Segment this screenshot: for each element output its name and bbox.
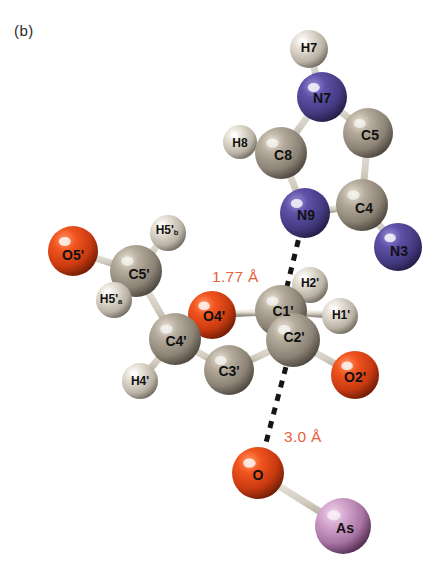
atom-O2p [331,351,379,399]
atom-O [232,447,284,499]
atom-layer [48,30,422,554]
atom-H5pa [96,282,132,318]
panel-label: (b) [14,22,34,39]
atom-C4 [336,179,388,231]
atom-C5 [343,108,393,158]
atom-H1p [322,298,358,334]
atom-O5p [48,226,98,276]
atom-C8 [255,127,307,179]
atom-N3 [374,223,422,271]
atom-C2p [266,313,320,367]
atom-N9 [280,188,330,238]
atom-C4p [149,313,201,365]
atom-N7 [297,72,347,122]
atom-H4p [122,363,158,399]
atom-As [315,498,371,554]
atom-H8 [223,125,257,159]
molecular-structure-figure: (b) 1.77 Å3.0 Å H7N7C5C8H8C4N9N3H5'bO5'C… [0,0,430,565]
atom-H5pb [150,215,186,251]
atom-C3p [204,345,254,395]
atom-H7 [290,30,328,68]
dist-c2prime-o: 3.0 Å [284,428,322,446]
dist-n9-c1prime: 1.77 Å [212,268,259,286]
